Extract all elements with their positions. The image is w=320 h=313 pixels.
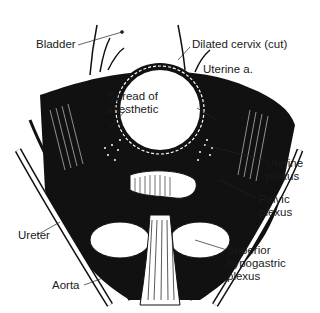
anatomy-figure: Bladder Dilated cervix (cut) Uterine a. … [0,0,320,313]
label-uterine-plexus-line2: plexus [266,170,299,183]
label-pelvic-plexus-line2: plexus [259,206,292,219]
label-bladder: Bladder [36,38,76,51]
label-superior-line2: hypogastric [227,257,286,270]
label-dilated-cervix: Dilated cervix (cut) [192,38,287,51]
label-spread-line2: anesthetic [106,103,158,116]
label-uterine-plexus-line1: Uterine [266,157,303,170]
label-superior-line1: Superior [227,244,270,257]
label-aorta: Aorta [52,279,80,292]
label-ureter: Ureter [18,229,50,242]
label-uterine-artery: Uterine a. [203,63,253,76]
label-superior-line3: plexus [227,270,260,283]
label-spread-line1: Spread of [108,90,158,103]
label-pelvic-plexus-line1: Pelvic [259,193,290,206]
